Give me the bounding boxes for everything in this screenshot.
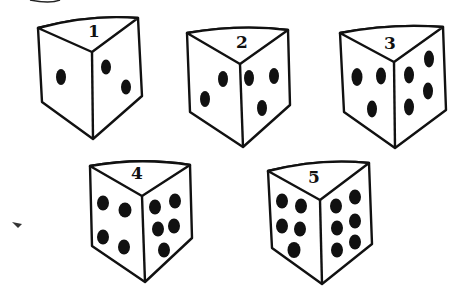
die-label: 3 bbox=[384, 33, 396, 53]
die-edge bbox=[394, 62, 395, 148]
die-5: 5 bbox=[268, 162, 372, 284]
die-label: 2 bbox=[236, 32, 248, 52]
die-label: 5 bbox=[308, 167, 320, 187]
die-3: 3 bbox=[340, 26, 446, 148]
die-4: 4 bbox=[90, 161, 192, 282]
stray-mark bbox=[12, 222, 22, 228]
die-edge bbox=[92, 52, 93, 139]
die-label: 4 bbox=[131, 163, 143, 183]
dice-figure: 1 2 3 bbox=[0, 0, 460, 304]
die-2: 2 bbox=[187, 28, 290, 147]
die-1: 1 bbox=[38, 17, 142, 139]
left-face-pips bbox=[56, 69, 66, 85]
top-edge-mark bbox=[30, 0, 60, 2]
die-label: 1 bbox=[88, 21, 100, 41]
